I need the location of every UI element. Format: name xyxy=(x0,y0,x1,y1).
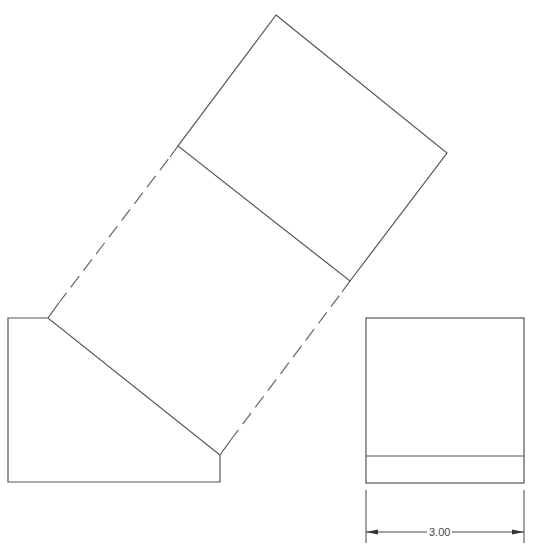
front-edge-stub-top xyxy=(48,304,58,318)
dimension-label: 3.00 xyxy=(427,526,452,538)
aux-edge-stub-left xyxy=(170,146,178,157)
arrowhead-right-icon xyxy=(512,530,524,535)
projection-line-upper xyxy=(58,157,170,304)
side-view xyxy=(366,318,524,483)
front-view xyxy=(8,318,220,482)
arrowhead-left-icon xyxy=(366,530,378,535)
auxiliary-view-top-face xyxy=(178,15,447,281)
projection-line-lower xyxy=(230,292,342,441)
front-edge-stub-bottom xyxy=(220,441,230,455)
aux-edge-stub-right xyxy=(342,281,350,292)
technical-drawing xyxy=(0,0,533,556)
